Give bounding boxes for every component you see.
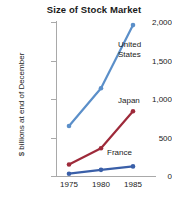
- stock-market-line-chart: Size of Stock Market $ billions at end o…: [0, 0, 172, 205]
- data-point-marker: [99, 168, 104, 173]
- data-point-marker: [99, 86, 104, 91]
- series-label-japan: Japan: [118, 96, 140, 106]
- data-point-marker: [131, 164, 136, 169]
- data-point-marker: [131, 23, 136, 28]
- data-point-marker: [99, 146, 104, 151]
- chart-plot: [0, 0, 172, 205]
- series-label-france: France: [107, 148, 132, 158]
- data-point-marker: [67, 124, 72, 129]
- series-label-united-states: United States: [118, 40, 141, 60]
- data-point-marker: [67, 171, 72, 176]
- data-point-marker: [67, 162, 72, 167]
- data-point-marker: [131, 109, 136, 114]
